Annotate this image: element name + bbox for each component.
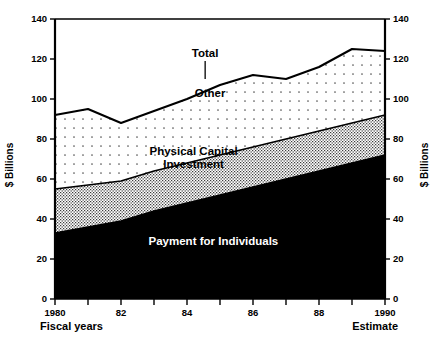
x-axis-estimate-note: Estimate [352, 320, 398, 332]
x-axis-title: Fiscal years [40, 320, 103, 332]
y-tick-label-left: 140 [31, 13, 47, 24]
y-axis-right-title: $ Billions [419, 142, 430, 187]
annotation-other: Other [195, 87, 226, 99]
y-tick-label-right: 100 [393, 93, 409, 104]
annotation-physical-capital-investment-line2: Investment [163, 158, 224, 170]
y-tick-label-left: 80 [36, 133, 47, 144]
y-tick-label-left: 20 [36, 253, 47, 264]
x-tick-label: 1990 [374, 307, 395, 318]
y-tick-label-left: 60 [36, 173, 47, 184]
x-tick-label: 1980 [44, 307, 65, 318]
stacked-area-chart: 020406080100120140 020406080100120140 19… [0, 0, 440, 349]
x-tick-label: 82 [116, 307, 127, 318]
y-tick-label-right: 80 [393, 133, 404, 144]
y-tick-label-right: 0 [393, 293, 398, 304]
x-tick-label: 86 [248, 307, 259, 318]
annotation-physical-capital-investment: Physical Capital [149, 145, 237, 157]
annotation-total: Total [192, 47, 219, 59]
y-tick-label-left: 0 [42, 293, 47, 304]
y-tick-label-left: 40 [36, 213, 47, 224]
y-tick-label-right: 140 [393, 13, 409, 24]
x-tick-label: 88 [314, 307, 325, 318]
y-tick-label-left: 120 [31, 53, 47, 64]
x-tick-label: 84 [182, 307, 193, 318]
annotation-payment-for-individuals: Payment for Individuals [149, 235, 279, 247]
y-tick-label-right: 120 [393, 53, 409, 64]
y-tick-label-right: 60 [393, 173, 404, 184]
chart-canvas: 020406080100120140 020406080100120140 19… [0, 0, 440, 349]
y-axis-left-title: $ Billions [4, 142, 15, 187]
y-tick-label-left: 100 [31, 93, 47, 104]
y-tick-label-right: 40 [393, 213, 404, 224]
y-tick-label-right: 20 [393, 253, 404, 264]
